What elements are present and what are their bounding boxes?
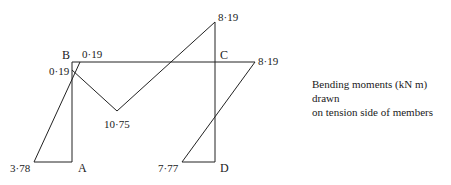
moment-label-c-beam: 8·19 <box>218 11 239 23</box>
node-label-d: D <box>220 161 229 175</box>
node-label-c: C <box>220 48 228 62</box>
moment-line-ab <box>34 62 80 162</box>
node-label-b: B <box>62 48 70 62</box>
caption-line-1: Bending moments (kN m) drawn <box>312 77 451 105</box>
moment-label-a: 3·78 <box>10 162 31 174</box>
moment-label-d: 7·77 <box>158 162 179 174</box>
caption: Bending moments (kN m) drawn on tension … <box>312 77 451 119</box>
caption-line-2: on tension side of members <box>312 105 451 119</box>
moment-label-b-column: 0·19 <box>49 65 70 77</box>
node-label-a: A <box>78 161 87 175</box>
moment-label-span: 10·75 <box>104 118 130 130</box>
moment-label-b-beam: 0·19 <box>82 48 103 60</box>
moment-line-b-mid <box>72 70 117 111</box>
moment-label-c-column: 8·19 <box>258 55 279 67</box>
moment-line-mid-c <box>117 22 215 111</box>
moment-line-cd <box>182 62 255 162</box>
